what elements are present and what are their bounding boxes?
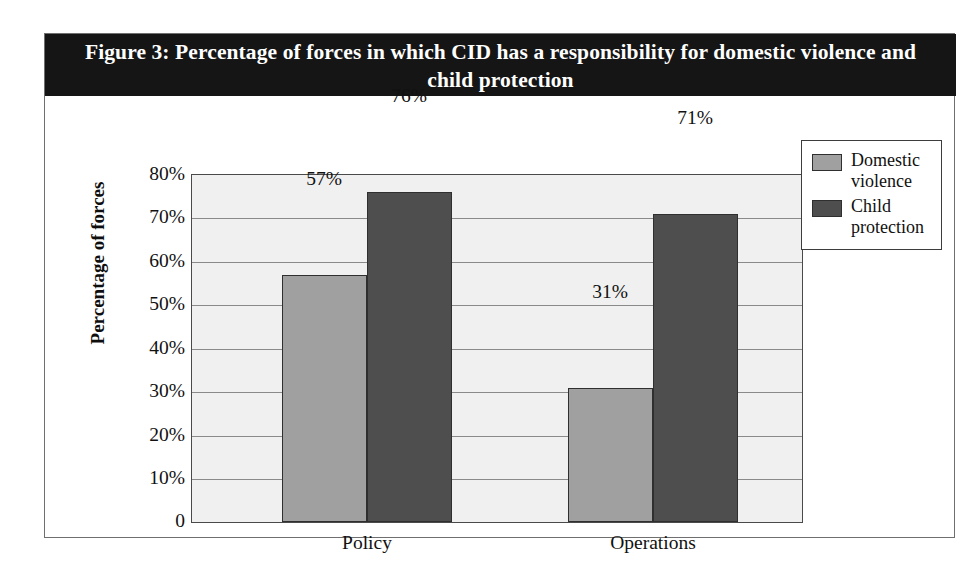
y-tick-10: 10% [149, 467, 185, 489]
legend-label-child-protection: Child protection [851, 196, 924, 238]
figure-title: Figure 3: Percentage of forces in which … [45, 34, 956, 94]
legend-swatch-domestic-violence [812, 154, 842, 171]
y-tick-30: 30% [149, 380, 185, 402]
x-label-policy: Policy [342, 532, 392, 554]
y-tick-80: 80% [149, 163, 185, 185]
legend-label-domestic-violence: Domestic violence [851, 150, 920, 192]
legend-label-domestic-violence-line1: Domestic [851, 150, 920, 170]
y-tick-70: 70% [149, 206, 185, 228]
value-label-policy-child-protection: 76% [391, 85, 427, 107]
y-axis-tick-labels: 80% 70% 60% 50% 40% 30% 20% 10% 0 [103, 96, 193, 538]
y-tick-20: 20% [149, 424, 185, 446]
legend-item-child-protection[interactable]: Child protection [812, 196, 924, 238]
x-label-operations: Operations [610, 532, 696, 554]
value-label-operations-domestic-violence: 31% [592, 281, 628, 303]
bar-policy-domestic-violence[interactable] [282, 275, 367, 522]
y-tick-50: 50% [149, 293, 185, 315]
legend-swatch-child-protection [812, 200, 842, 217]
legend-label-child-protection-line1: Child [851, 196, 891, 216]
y-tick-0: 0 [175, 510, 185, 532]
value-label-operations-child-protection: 71% [677, 107, 713, 129]
legend-item-domestic-violence[interactable]: Domestic violence [812, 150, 920, 192]
bar-operations-domestic-violence[interactable] [568, 388, 653, 522]
legend-label-child-protection-line2: protection [851, 217, 924, 237]
figure-title-banner: Figure 3: Percentage of forces in which … [45, 34, 956, 96]
chart-region: Percentage of forces 80% 70% 60% 50% 40%… [45, 96, 956, 538]
y-tick-40: 40% [149, 337, 185, 359]
bar-policy-child-protection[interactable] [367, 192, 452, 522]
value-label-policy-domestic-violence: 57% [306, 168, 342, 190]
legend-label-domestic-violence-line2: violence [851, 171, 912, 191]
chart-legend: Domestic violence Child protection [801, 140, 942, 250]
bar-operations-child-protection[interactable] [653, 214, 738, 522]
figure-frame: Figure 3: Percentage of forces in which … [44, 33, 955, 538]
plot-area [191, 174, 803, 523]
y-tick-60: 60% [149, 250, 185, 272]
